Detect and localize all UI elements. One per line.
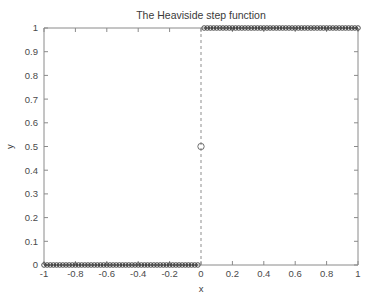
x-tick-label: 0.2 — [226, 268, 239, 279]
x-tick-label: 0.8 — [320, 268, 333, 279]
y-tick-label: 0.8 — [25, 70, 38, 81]
y-tick-label: 0.4 — [25, 165, 38, 176]
x-axis-label: x — [199, 283, 204, 294]
x-tick-label: -0.6 — [99, 268, 115, 279]
x-tick-label: -1 — [40, 268, 48, 279]
chart-background — [0, 0, 374, 307]
y-tick-label: 0.1 — [25, 236, 38, 247]
x-tick-label: 0.6 — [289, 268, 302, 279]
x-tick-label: -0.4 — [130, 268, 146, 279]
y-axis-label: y — [4, 144, 15, 149]
chart-title: The Heaviside step function — [136, 9, 266, 21]
y-tick-label: 0.5 — [25, 141, 38, 152]
x-tick-label: -0.2 — [161, 268, 177, 279]
figure-canvas: -1-0.8-0.6-0.4-0.200.20.40.60.8100.10.20… — [0, 0, 374, 307]
y-tick-label: 0.7 — [25, 94, 38, 105]
x-tick-label: 0 — [198, 268, 203, 279]
y-tick-label: 0 — [33, 259, 38, 270]
y-tick-label: 0.2 — [25, 212, 38, 223]
x-tick-label: -0.8 — [67, 268, 83, 279]
x-tick-label: 1 — [355, 268, 360, 279]
y-tick-label: 0.6 — [25, 117, 38, 128]
y-tick-label: 0.9 — [25, 46, 38, 57]
y-tick-label: 0.3 — [25, 188, 38, 199]
x-tick-label: 0.4 — [257, 268, 270, 279]
y-tick-label: 1 — [33, 22, 38, 33]
heaviside-step-chart: -1-0.8-0.6-0.4-0.200.20.40.60.8100.10.20… — [0, 0, 374, 307]
